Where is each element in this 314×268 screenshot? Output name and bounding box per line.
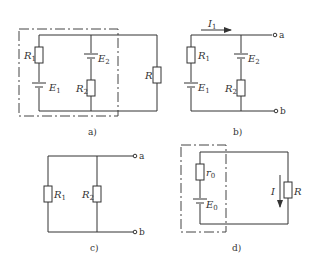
label-r1: R1 xyxy=(53,189,66,202)
resistor-r2 xyxy=(93,186,101,202)
label-e1: E1 xyxy=(48,82,61,95)
label-r1: R1 xyxy=(23,50,36,63)
terminal-b xyxy=(274,109,278,113)
dashed-boundary xyxy=(19,29,118,116)
terminal-b-label: b xyxy=(280,106,286,116)
resistor-r1 xyxy=(187,47,195,63)
resistor-r xyxy=(284,182,292,198)
panel-c: R1 R2 a b c) xyxy=(44,151,145,253)
label-r2: R2 xyxy=(224,83,237,96)
battery-e1 xyxy=(184,82,198,88)
circuit-wire xyxy=(191,35,274,111)
label-r2: R2 xyxy=(81,189,94,202)
caption-d: d) xyxy=(232,243,241,253)
battery-e2 xyxy=(84,53,98,59)
label-i1: I1 xyxy=(207,18,216,31)
panel-d: r0 E0 I R d) xyxy=(181,145,302,253)
circuit-figure: R1 E1 E2 R2 R a) I1 R1 E1 E2 R2 a b b) xyxy=(0,0,314,268)
battery-e1 xyxy=(32,82,46,88)
label-r: R xyxy=(144,70,153,81)
terminal-a-label: a xyxy=(139,151,145,161)
terminal-a xyxy=(133,154,137,158)
label-e0: E0 xyxy=(205,199,218,212)
terminal-b xyxy=(133,230,137,234)
label-e1: E1 xyxy=(197,82,210,95)
panel-b: I1 R1 E1 E2 R2 a b b) xyxy=(184,18,286,137)
label-r: R xyxy=(293,186,302,197)
resistor-r1 xyxy=(35,47,43,63)
caption-c: c) xyxy=(90,243,99,253)
caption-b: b) xyxy=(233,127,242,137)
battery-e2 xyxy=(234,53,248,59)
label-e2: E2 xyxy=(97,53,110,66)
panel-a: R1 E1 E2 R2 R a) xyxy=(19,29,161,137)
terminal-a xyxy=(273,33,277,37)
resistor-r2 xyxy=(87,80,95,96)
label-i: I xyxy=(270,186,276,197)
resistor-r1 xyxy=(44,186,52,202)
resistor-r xyxy=(153,67,161,83)
resistor-r0 xyxy=(196,164,204,180)
label-r2: R2 xyxy=(75,83,88,96)
terminal-a-label: a xyxy=(279,30,285,40)
label-r0: r0 xyxy=(206,167,215,180)
terminal-b-label: b xyxy=(139,227,145,237)
circuit-wire xyxy=(39,35,157,111)
label-e2: E2 xyxy=(247,53,260,66)
label-r1: R1 xyxy=(197,50,210,63)
caption-a: a) xyxy=(88,127,97,137)
resistor-r2 xyxy=(237,80,245,96)
dashed-boundary xyxy=(181,145,226,232)
battery-e0 xyxy=(193,198,207,204)
